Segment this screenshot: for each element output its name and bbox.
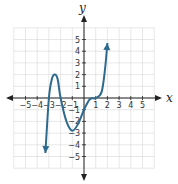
y-axis-label: y [78,1,86,15]
svg-text:1: 1 [75,82,80,91]
svg-text:−5: −5 [20,101,32,110]
svg-text:2: 2 [105,101,110,110]
svg-text:3: 3 [75,59,80,68]
svg-text:4: 4 [128,101,133,110]
svg-text:3: 3 [117,101,122,110]
svg-text:−5: −5 [68,153,80,162]
svg-text:−4: −4 [68,141,80,150]
x-axis-label: x [166,91,173,105]
polynomial-graph: −5−4−3−2−11234554321−1−2−3−4−5 x y [0,0,178,184]
svg-text:2: 2 [75,71,80,80]
svg-text:−4: −4 [31,101,43,110]
svg-text:5: 5 [75,36,80,45]
svg-text:5: 5 [140,101,145,110]
svg-text:−1: −1 [68,106,80,115]
svg-text:1: 1 [93,101,98,110]
svg-text:4: 4 [75,47,80,56]
